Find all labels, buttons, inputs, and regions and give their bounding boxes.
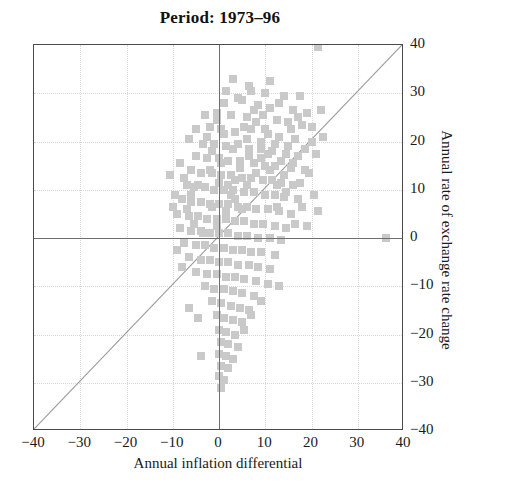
gridline-horizontal	[34, 335, 402, 337]
zero-vertical-axis-line	[219, 45, 220, 429]
data-point	[252, 205, 260, 213]
data-point	[308, 138, 316, 146]
data-point	[199, 140, 207, 148]
data-point	[264, 150, 272, 158]
data-point	[247, 248, 255, 256]
data-point	[197, 169, 205, 177]
data-point	[178, 263, 186, 271]
y-tick-label: −30	[410, 373, 433, 391]
data-point	[314, 45, 322, 51]
data-point	[234, 343, 242, 351]
data-point	[240, 188, 248, 196]
data-point	[301, 145, 309, 153]
data-point	[222, 215, 230, 223]
data-point	[234, 94, 242, 102]
data-point	[236, 164, 244, 172]
data-point	[275, 282, 283, 290]
gridline-vertical	[312, 45, 314, 429]
data-point	[243, 181, 251, 189]
data-point	[238, 205, 246, 213]
data-point	[273, 203, 281, 211]
data-point	[224, 364, 232, 372]
data-point	[208, 147, 216, 155]
data-point	[203, 215, 211, 223]
data-point	[194, 314, 202, 322]
gridline-vertical	[127, 45, 129, 429]
data-point	[208, 297, 216, 305]
data-point	[194, 181, 202, 189]
data-point	[183, 205, 191, 213]
data-point	[197, 198, 205, 206]
data-point	[210, 285, 218, 293]
data-point	[271, 251, 279, 259]
data-point	[259, 220, 267, 228]
x-tick-label: 0	[196, 434, 240, 451]
data-point	[240, 275, 248, 283]
data-point	[247, 311, 255, 319]
data-point	[180, 174, 188, 182]
y-tick-label: −20	[410, 325, 433, 343]
y-tick-label: 0	[410, 228, 418, 246]
data-point	[206, 256, 214, 264]
data-point	[247, 125, 255, 133]
data-point	[231, 217, 239, 225]
data-point	[192, 125, 200, 133]
data-point	[291, 220, 299, 228]
data-point	[229, 75, 237, 83]
data-point	[176, 159, 184, 167]
data-point	[206, 123, 214, 131]
data-point	[201, 282, 209, 290]
data-point	[282, 224, 290, 232]
y-tick-label: −10	[410, 276, 433, 294]
data-point	[271, 222, 279, 230]
data-point	[192, 268, 200, 276]
data-point	[169, 203, 177, 211]
data-point	[229, 287, 237, 295]
data-point	[266, 166, 274, 174]
data-point	[220, 314, 228, 322]
data-point	[247, 87, 255, 95]
data-point	[220, 99, 228, 107]
data-point	[187, 166, 195, 174]
data-point	[203, 270, 211, 278]
data-point	[224, 157, 232, 165]
data-point	[240, 326, 248, 334]
data-point	[208, 203, 216, 211]
data-point	[250, 106, 258, 114]
data-point	[245, 261, 253, 269]
data-point	[250, 188, 258, 196]
data-point	[298, 203, 306, 211]
y-tick-label: 40	[410, 35, 425, 53]
data-point	[271, 140, 279, 148]
y-tick-label: 20	[410, 132, 425, 150]
data-point	[275, 99, 283, 107]
y-tick-label: 30	[410, 83, 425, 101]
data-point	[296, 179, 304, 187]
data-point	[254, 263, 262, 271]
data-point	[231, 176, 239, 184]
data-point	[287, 125, 295, 133]
data-point	[224, 229, 232, 237]
y-tick-label: −40	[410, 421, 433, 439]
data-point	[210, 244, 218, 252]
data-point	[266, 77, 274, 85]
data-point	[185, 304, 193, 312]
gridline-horizontal	[34, 93, 402, 95]
data-point	[305, 169, 313, 177]
data-point	[229, 246, 237, 254]
x-tick-label: 20	[289, 434, 333, 451]
x-tick-label: 30	[335, 434, 379, 451]
data-point	[310, 191, 318, 199]
data-point	[234, 261, 242, 269]
data-point	[222, 328, 230, 336]
data-point	[190, 220, 198, 228]
data-point	[224, 258, 232, 266]
data-point	[231, 273, 239, 281]
data-point	[197, 256, 205, 264]
data-point	[266, 265, 274, 273]
data-point	[238, 246, 246, 254]
data-point	[187, 227, 195, 235]
x-tick-label: −30	[57, 434, 101, 451]
data-point	[245, 152, 253, 160]
data-point	[291, 135, 299, 143]
